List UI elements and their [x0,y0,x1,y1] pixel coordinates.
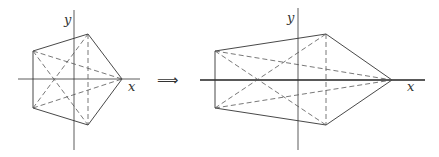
left-y-label: y [63,12,72,27]
left-diagonals [33,34,122,125]
right-figure: y x [200,8,425,150]
left-x-label: x [128,79,136,94]
right-y-label: y [286,10,295,25]
left-figure: y x [18,10,140,150]
pentagon-transformation-diagram: y x ⟹ y x [0,0,439,157]
right-x-label: x [407,79,415,94]
implies-arrow: ⟹ [157,71,179,89]
